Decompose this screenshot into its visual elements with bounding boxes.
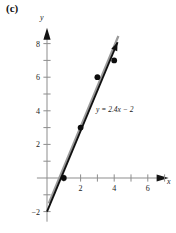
- x-tick-label: 6: [146, 184, 150, 193]
- figure-panel: (c) 246−22468 x y y = 2.4x − 2: [0, 0, 176, 233]
- y-tick-label: 6: [36, 73, 40, 82]
- x-tick-label: 2: [79, 184, 83, 193]
- y-tick-label: 4: [36, 107, 40, 116]
- equation-annotation: y = 2.4x − 2: [95, 105, 134, 114]
- data-point: [78, 125, 84, 131]
- scatter-plot: 246−22468 x y y = 2.4x − 2: [0, 0, 176, 233]
- data-points: [61, 58, 117, 181]
- y-axis-arrow-icon: [43, 28, 50, 40]
- part-label: (c): [6, 2, 18, 14]
- data-point: [61, 175, 67, 181]
- y-tick-label: 8: [36, 40, 40, 49]
- x-axis-label: x: [166, 177, 171, 186]
- x-tick-label: 4: [112, 184, 116, 193]
- y-tick-label: −2: [31, 208, 40, 217]
- data-point: [95, 74, 101, 80]
- data-point: [111, 58, 117, 64]
- y-axis-label: y: [39, 13, 44, 22]
- y-tick-label: 2: [36, 140, 40, 149]
